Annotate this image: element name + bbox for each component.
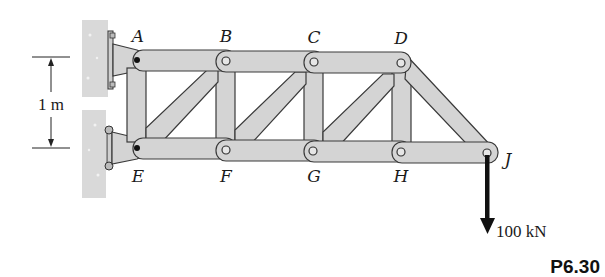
node-label-g: G <box>307 166 321 186</box>
pin-c <box>310 58 318 66</box>
truss-diagram: 100 kN 1 m A B C D E F G H J P6.30 <box>0 0 605 277</box>
dim-arrow-up-icon <box>48 58 54 66</box>
pin-e <box>134 145 140 151</box>
node-label-f: F <box>219 166 233 186</box>
member-fc <box>235 72 306 146</box>
node-label-h: H <box>393 166 410 186</box>
top-chord <box>133 50 411 73</box>
dimension-label: 1 m <box>38 95 64 114</box>
arrowhead-icon <box>480 218 495 234</box>
node-label-d: D <box>393 28 408 48</box>
member-ae <box>127 68 146 142</box>
node-label-b: B <box>219 26 233 46</box>
node-label-j: J <box>502 149 513 169</box>
lower-wall <box>82 110 106 198</box>
pin-h <box>397 148 405 156</box>
pin-a <box>134 57 140 63</box>
pin-g <box>309 147 317 155</box>
member-bf <box>216 68 235 144</box>
pin-f <box>222 146 230 154</box>
node-label-e: E <box>131 166 145 186</box>
node-label-a: A <box>130 26 144 46</box>
member-hj <box>392 142 498 163</box>
member-gd <box>323 74 394 148</box>
load-label: 100 kN <box>496 222 547 241</box>
pin-d <box>397 59 405 67</box>
member-cg <box>304 70 323 146</box>
pin-b <box>222 57 230 65</box>
load-arrow <box>480 155 495 234</box>
member-cd <box>304 52 411 73</box>
node-label-c: C <box>307 27 320 47</box>
dim-arrow-down-icon <box>48 139 54 147</box>
member-eb <box>146 70 218 144</box>
problem-number: P6.30 <box>550 256 600 277</box>
upper-wall <box>82 20 108 97</box>
